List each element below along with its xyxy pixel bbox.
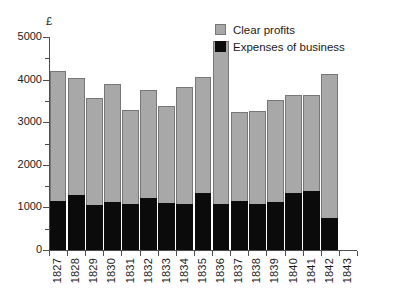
bar-1835	[195, 77, 212, 250]
x-axis-tick-label: 1832	[143, 258, 154, 283]
x-axis-tick-label: 1837	[233, 258, 244, 283]
bar-segment-expenses-of-business	[303, 191, 320, 250]
x-axis-tick	[285, 251, 286, 256]
x-axis-tick	[140, 251, 141, 256]
y-axis-tick-label-wrap: 0	[0, 250, 42, 251]
x-axis-tick-label: 1838	[251, 258, 262, 283]
bar-segment-expenses-of-business	[140, 198, 157, 250]
x-axis-tick-label: 1827	[52, 258, 63, 283]
bar-segment-expenses-of-business	[285, 193, 302, 250]
x-axis-tick	[339, 251, 340, 256]
x-axis-tick	[321, 251, 322, 256]
bar-segment-expenses-of-business	[104, 202, 121, 250]
y-axis-tick-label-wrap: 4000	[0, 80, 42, 81]
y-axis-tick-label: 3000	[2, 116, 42, 127]
legend: Clear profits Expenses of business	[215, 22, 345, 56]
bar-1838	[249, 111, 266, 250]
x-axis-tick	[194, 251, 195, 256]
x-axis-tick	[266, 251, 267, 256]
bar-1837	[231, 112, 248, 250]
bar-1842	[321, 74, 338, 250]
bar-segment-expenses-of-business	[267, 202, 284, 250]
y-axis-tick-label: 2000	[2, 159, 42, 170]
y-axis-tick-label: 1000	[2, 201, 42, 212]
plot-area	[49, 37, 357, 250]
bar-segment-expenses-of-business	[86, 205, 103, 250]
profit-swatch-icon	[215, 24, 226, 35]
legend-label: Expenses of business	[233, 41, 345, 53]
y-axis-tick-label: 4000	[2, 74, 42, 85]
bar-segment-expenses-of-business	[213, 204, 230, 250]
bar-1840	[285, 95, 302, 250]
y-axis-tick-label-wrap: 3000	[0, 122, 42, 123]
bar-1830	[104, 84, 121, 250]
bar-1833	[158, 106, 175, 250]
x-axis-tick	[212, 251, 213, 256]
bar-1841	[303, 95, 320, 250]
x-axis-line	[49, 250, 357, 251]
x-axis-tick-label: 1834	[179, 258, 190, 283]
x-axis-tick	[85, 251, 86, 256]
bar-segment-expenses-of-business	[122, 204, 139, 250]
x-axis-end-tick	[357, 251, 358, 256]
bar-1839	[267, 100, 284, 250]
x-axis-tick-label: 1843	[342, 258, 353, 283]
bar-segment-expenses-of-business	[158, 203, 175, 250]
x-axis-tick	[49, 251, 50, 256]
legend-item-clear-profits: Clear profits	[215, 22, 345, 37]
y-axis-unit-label: £	[46, 15, 52, 27]
bar-segment-expenses-of-business	[231, 201, 248, 250]
legend-item-expenses-of-business: Expenses of business	[215, 39, 345, 54]
x-axis-tick	[67, 251, 68, 256]
y-axis-tick-label-wrap: 1000	[0, 207, 42, 208]
x-axis-tick	[176, 251, 177, 256]
x-axis-tick-label: 1835	[197, 258, 208, 283]
bar-segment-expenses-of-business	[249, 204, 266, 250]
x-axis-tick	[121, 251, 122, 256]
bar-1831	[122, 110, 139, 250]
bar-segment-expenses-of-business	[321, 218, 338, 250]
expense-swatch-icon	[215, 41, 226, 52]
x-axis-tick-label: 1828	[70, 258, 81, 283]
x-axis-tick-label: 1836	[215, 258, 226, 283]
x-axis-tick	[230, 251, 231, 256]
x-axis-tick-label: 1841	[306, 258, 317, 283]
bar-segment-expenses-of-business	[50, 201, 67, 250]
legend-label: Clear profits	[233, 24, 295, 36]
x-axis-tick-label: 1842	[324, 258, 335, 283]
bar-segment-expenses-of-business	[195, 193, 212, 250]
x-axis-tick	[248, 251, 249, 256]
bar-1828	[68, 78, 85, 250]
x-axis-tick	[303, 251, 304, 256]
y-axis-tick-label: 5000	[2, 31, 42, 42]
x-axis-tick-label: 1833	[161, 258, 172, 283]
x-axis-tick-label: 1831	[125, 258, 136, 283]
bar-1832	[140, 90, 157, 250]
bar-segment-expenses-of-business	[176, 204, 193, 250]
bar-1827	[50, 71, 67, 250]
y-axis-tick-label-wrap: 5000	[0, 37, 42, 38]
bar-1836	[213, 41, 230, 250]
stacked-bar-chart: £ 010002000300040005000 1827182818291830…	[0, 0, 395, 292]
x-axis-tick-label: 1839	[269, 258, 280, 283]
x-axis-tick	[158, 251, 159, 256]
x-axis-tick	[103, 251, 104, 256]
x-axis-tick-label: 1830	[106, 258, 117, 283]
y-axis-tick-label-wrap: 2000	[0, 165, 42, 166]
y-axis-tick-label: 0	[2, 244, 42, 255]
x-axis-tick-label: 1840	[288, 258, 299, 283]
x-axis-tick-label: 1829	[88, 258, 99, 283]
bar-1834	[176, 87, 193, 250]
bar-segment-expenses-of-business	[68, 195, 85, 250]
bar-1829	[86, 98, 103, 250]
